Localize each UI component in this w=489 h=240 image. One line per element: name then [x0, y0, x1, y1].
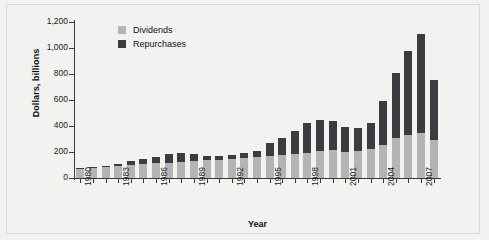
legend-label-repurchases: Repurchases — [133, 40, 186, 49]
legend-label-dividends: Dividends — [133, 26, 173, 35]
bar-1991 — [215, 156, 223, 178]
legend-swatch-repurchases — [118, 40, 126, 48]
bar-2000 — [329, 121, 337, 178]
bar-segment-dividends — [139, 164, 147, 178]
bar-segment-dividends — [177, 162, 185, 178]
bar-2005 — [392, 73, 400, 178]
x-axis-tick — [295, 178, 296, 183]
x-axis-tick — [143, 178, 144, 183]
x-axis-tick — [282, 178, 283, 183]
y-axis-tick — [69, 22, 75, 23]
bar-1988 — [177, 153, 185, 178]
y-axis-tick-label: 400 — [12, 121, 68, 130]
legend-swatch-dividends — [118, 26, 126, 34]
x-axis-tick — [194, 178, 195, 183]
x-axis-tick — [207, 178, 208, 183]
y-axis-tick-label: 1,000 — [12, 43, 68, 52]
bar-segment-dividends — [253, 157, 261, 178]
x-axis-tick — [131, 178, 132, 183]
x-axis-tick-label: 1983 — [122, 167, 131, 186]
y-axis-tick — [69, 74, 75, 75]
x-axis-tick-label: 1986 — [160, 167, 169, 186]
bar-1994 — [253, 151, 261, 178]
x-axis-tick — [257, 178, 258, 183]
x-axis-tick — [80, 178, 81, 183]
legend-item-dividends: Dividends — [118, 24, 186, 36]
legend-item-repurchases: Repurchases — [118, 38, 186, 50]
bar-1982 — [102, 166, 110, 178]
x-axis-tick — [396, 178, 397, 183]
x-axis-title: Year — [74, 219, 441, 229]
y-axis-tick — [69, 100, 75, 101]
bar-segment-repurchases — [177, 153, 185, 162]
bar-1997 — [291, 131, 299, 178]
x-axis-tick — [371, 178, 372, 183]
y-axis-tick-label: 1,200 — [12, 17, 68, 26]
bar-segment-repurchases — [341, 127, 349, 152]
x-axis-tick-label: 1989 — [198, 167, 207, 186]
bar-1985 — [139, 159, 147, 178]
bar-segment-dividends — [291, 154, 299, 178]
x-axis-tick — [169, 178, 170, 183]
bar-segment-repurchases — [190, 154, 198, 161]
bar-segment-repurchases — [354, 128, 362, 151]
x-axis-tick — [421, 178, 422, 183]
x-axis-tick-label: 1998 — [311, 167, 320, 186]
x-axis-tick — [118, 178, 119, 183]
y-axis-tick — [69, 126, 75, 127]
y-axis-tick — [69, 178, 75, 179]
chart-figure: Dollars, billions 02004006008001,0001,20… — [0, 0, 489, 240]
x-axis-tick — [156, 178, 157, 183]
bar-segment-repurchases — [404, 51, 412, 136]
x-axis-tick — [270, 178, 271, 183]
x-axis-tick-label: 1980 — [84, 167, 93, 186]
x-axis-tick — [181, 178, 182, 183]
bar-segment-dividends — [329, 150, 337, 178]
bar-2008 — [430, 80, 438, 178]
x-axis-tick — [345, 178, 346, 183]
x-axis-tick-label: 2004 — [387, 167, 396, 186]
bar-segment-repurchases — [316, 120, 324, 151]
x-axis-tick — [333, 178, 334, 183]
x-axis-tick — [307, 178, 308, 183]
x-axis-tick — [232, 178, 233, 183]
x-axis-tick-label: 2007 — [425, 167, 434, 186]
bar-segment-dividends — [404, 135, 412, 178]
x-axis-tick — [93, 178, 94, 183]
x-axis-tick — [408, 178, 409, 183]
bar-segment-repurchases — [367, 123, 375, 149]
bar-segment-repurchases — [303, 123, 311, 153]
bar-segment-repurchases — [329, 121, 337, 150]
y-axis-tick-label: 0 — [12, 173, 68, 182]
x-axis-tick — [219, 178, 220, 183]
bar-segment-dividends — [215, 160, 223, 178]
bar-segment-repurchases — [417, 34, 425, 133]
y-axis-tick-label: 800 — [12, 69, 68, 78]
bar-segment-dividends — [367, 149, 375, 178]
x-axis-tick — [320, 178, 321, 183]
bar-segment-repurchases — [291, 131, 299, 154]
x-axis-tick-label: 2001 — [349, 167, 358, 186]
x-axis-tick-label: 1992 — [236, 167, 245, 186]
bar-segment-repurchases — [266, 143, 274, 156]
x-axis-tick — [106, 178, 107, 183]
y-axis-labels: 02004006008001,0001,200 — [4, 0, 68, 240]
x-axis-tick — [358, 178, 359, 183]
y-axis-tick — [69, 152, 75, 153]
bar-segment-repurchases — [430, 80, 438, 140]
y-axis-tick — [69, 48, 75, 49]
bar-segment-dividends — [102, 167, 110, 178]
bar-2007 — [417, 34, 425, 178]
x-axis-tick-label: 1995 — [274, 167, 283, 186]
bar-2006 — [404, 51, 412, 178]
x-axis-tick — [434, 178, 435, 183]
bar-segment-repurchases — [379, 101, 387, 145]
bar-segment-repurchases — [392, 73, 400, 138]
bar-2003 — [367, 123, 375, 178]
x-axis-tick — [244, 178, 245, 183]
chart-legend: Dividends Repurchases — [118, 24, 186, 52]
bar-segment-repurchases — [278, 138, 286, 154]
y-axis-tick-label: 200 — [12, 147, 68, 156]
x-axis-tick — [383, 178, 384, 183]
y-axis-tick-label: 600 — [12, 95, 68, 104]
